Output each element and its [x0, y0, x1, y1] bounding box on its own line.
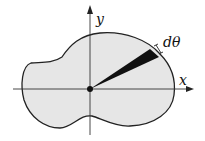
- region-shape: [22, 33, 174, 128]
- y-axis-label: y: [96, 12, 104, 26]
- x-axis-arrow-icon: [186, 86, 194, 92]
- x-axis-label: x: [179, 73, 187, 87]
- polar-area-diagram: y x dθ: [0, 0, 205, 141]
- origin-point: [87, 86, 93, 92]
- dtheta-label: dθ: [163, 35, 180, 49]
- y-axis-arrow-icon: [87, 5, 93, 14]
